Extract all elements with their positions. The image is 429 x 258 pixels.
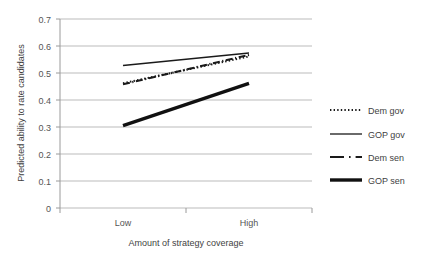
y-tick-label-0.5: 0.5: [38, 69, 51, 79]
legend-label-dem-sen: Dem sen: [368, 153, 404, 163]
y-tick-label-0: 0: [46, 204, 51, 214]
legend-label-dem-gov: Dem gov: [368, 106, 405, 116]
legend-label-gop-sen: GOP sen: [368, 176, 405, 186]
y-tick-label-0.6: 0.6: [38, 42, 51, 52]
y-tick-label-0.4: 0.4: [38, 96, 51, 106]
line-chart-svg: 0.7 0.6 0.5 0.4 0.3 0.2 0.1 0 Low High A…: [0, 0, 429, 258]
x-tick-label-low: Low: [115, 218, 132, 228]
chart-background: [0, 0, 429, 258]
legend-label-gop-gov: GOP gov: [368, 130, 405, 140]
y-tick-label-0.7: 0.7: [38, 15, 51, 25]
y-tick-label-0.3: 0.3: [38, 123, 51, 133]
y-tick-label-0.2: 0.2: [38, 150, 51, 160]
x-tick-label-high: High: [240, 218, 259, 228]
x-axis-title: Amount of strategy coverage: [128, 238, 243, 248]
chart-figure: 0.7 0.6 0.5 0.4 0.3 0.2 0.1 0 Low High A…: [0, 0, 429, 258]
y-axis-title: Predicted ability to rate candidates: [16, 44, 26, 182]
y-tick-label-0.1: 0.1: [38, 177, 51, 187]
